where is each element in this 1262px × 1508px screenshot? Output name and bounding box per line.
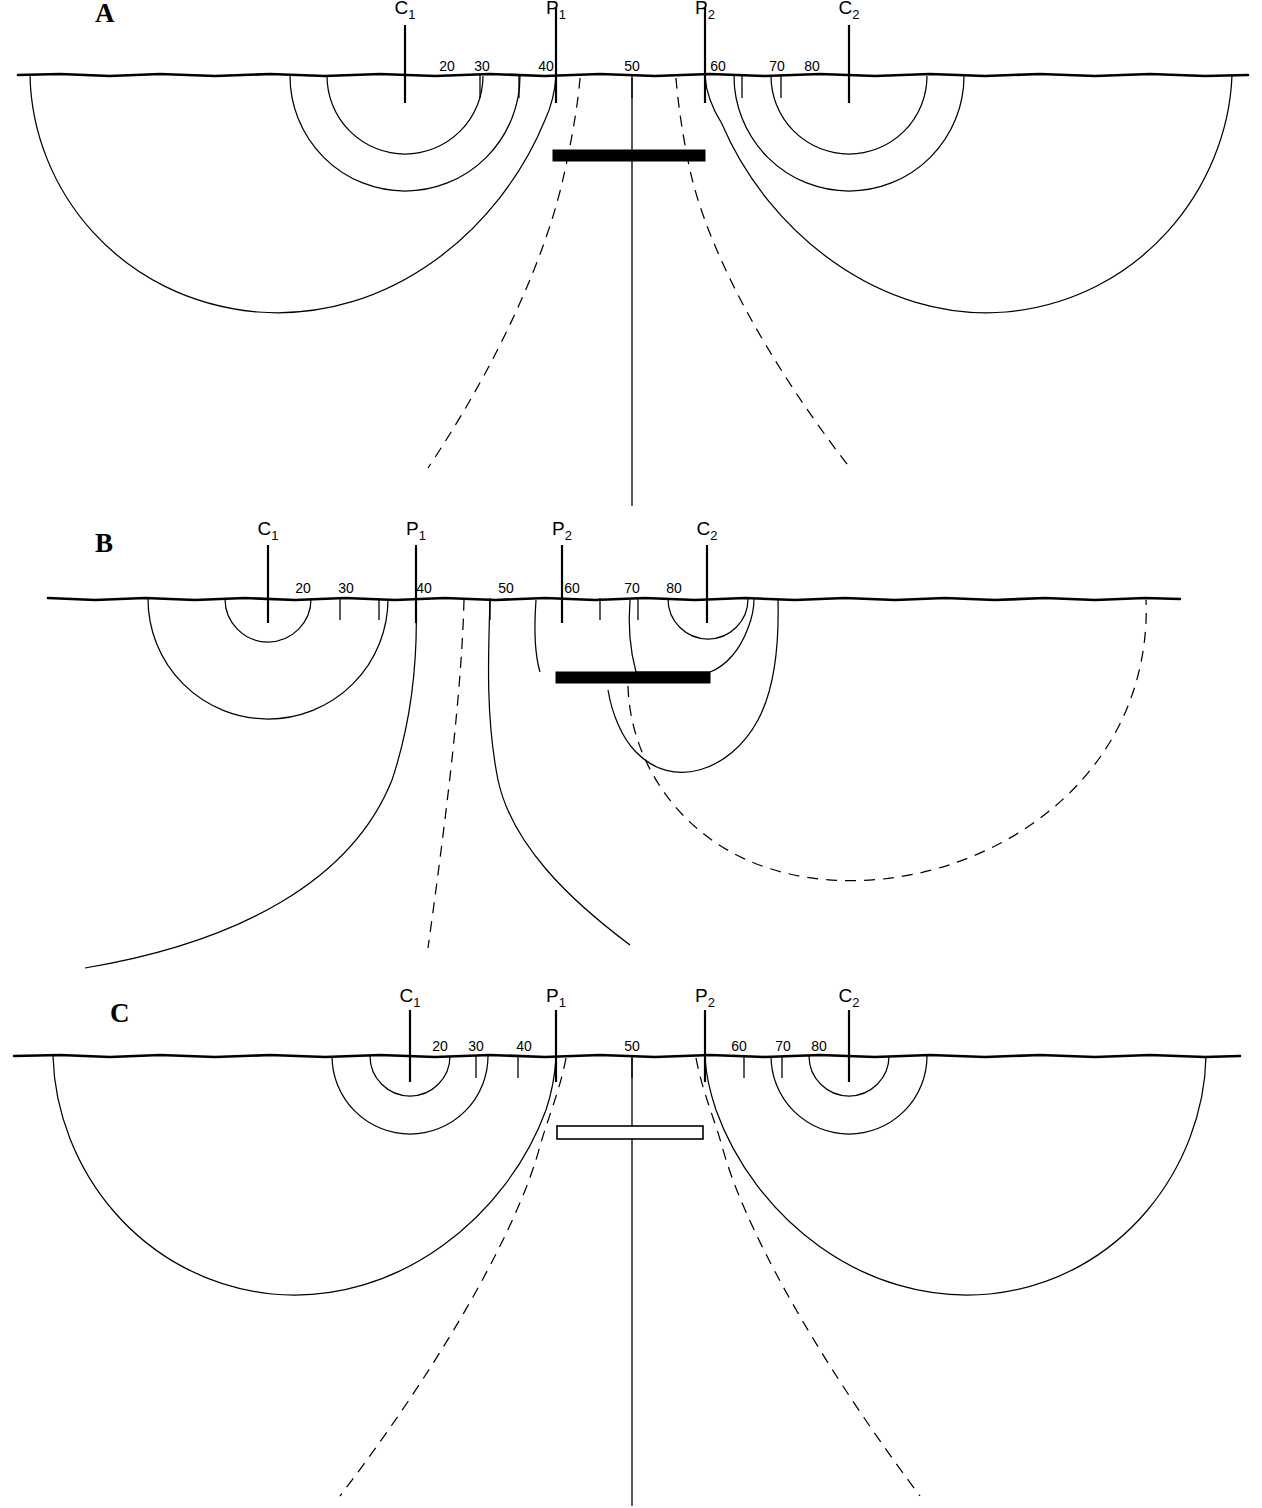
electrode-label-b-p1: P1 bbox=[406, 518, 426, 543]
figure-canvas: A C1 P1 P2 bbox=[0, 0, 1262, 1508]
tick-label-b-80: 80 bbox=[666, 580, 682, 596]
electrode-label-c-c2: C2 bbox=[839, 985, 860, 1010]
equipotential-c-c1-outer bbox=[53, 1056, 556, 1295]
electrode-label-c1: C1 bbox=[395, 0, 416, 22]
panel-c-letter: C bbox=[110, 998, 130, 1028]
equipotential-b-c2-outer bbox=[608, 600, 778, 772]
conductive-body-b bbox=[556, 672, 710, 683]
panel-a-letter: A bbox=[95, 0, 115, 28]
electrode-label-b-c1: C1 bbox=[258, 518, 279, 543]
tick-label-b-70: 70 bbox=[624, 580, 640, 596]
current-line-c-left bbox=[340, 1058, 566, 1496]
tick-label-b-20: 20 bbox=[295, 580, 311, 596]
tick-label-c-40: 40 bbox=[516, 1038, 532, 1054]
tick-label-b-60: 60 bbox=[564, 580, 580, 596]
resistivity-figure: A C1 P1 P2 bbox=[0, 0, 1262, 1508]
tick-label-c-30: 30 bbox=[468, 1038, 484, 1054]
resistive-body bbox=[557, 1126, 703, 1139]
tick-label-b-50: 50 bbox=[498, 580, 514, 596]
tick-label-c-70: 70 bbox=[775, 1038, 791, 1054]
tick-label-c-20: 20 bbox=[432, 1038, 448, 1054]
electrode-label-c-c1: C1 bbox=[400, 985, 421, 1010]
ground-surface bbox=[18, 74, 1248, 76]
ground-surface-c bbox=[14, 1055, 1240, 1057]
tick-label-70: 70 bbox=[769, 58, 785, 74]
current-line-right bbox=[676, 78, 850, 468]
tick-label-30: 30 bbox=[474, 58, 490, 74]
tick-label-60: 60 bbox=[710, 58, 726, 74]
equipotential-c1-outer bbox=[30, 75, 556, 313]
panel-b-letter: B bbox=[95, 528, 113, 558]
tick-label-c-50: 50 bbox=[624, 1038, 640, 1054]
panel-c: C C1 P1 P2 bbox=[14, 985, 1240, 1506]
scale-ticks-c bbox=[476, 1056, 782, 1078]
electrode-label-c-p2: P2 bbox=[695, 985, 715, 1010]
tick-label-80: 80 bbox=[804, 58, 820, 74]
tick-label-c-60: 60 bbox=[731, 1038, 747, 1054]
tick-label-c-80: 80 bbox=[811, 1038, 827, 1054]
current-line-b-outer bbox=[628, 600, 1146, 881]
electrode-label-b-c2: C2 bbox=[697, 518, 718, 543]
current-line-b-left bbox=[428, 600, 464, 948]
current-line-left bbox=[428, 78, 580, 468]
electrode-label-c2: C2 bbox=[839, 0, 860, 22]
electrode-label-b-p2: P2 bbox=[552, 518, 572, 543]
equipotential-b-bar-left bbox=[535, 600, 540, 672]
equipotential-c2-outer bbox=[705, 75, 1232, 313]
tick-label-b-40: 40 bbox=[416, 580, 432, 596]
tick-label-20: 20 bbox=[439, 58, 455, 74]
panel-a: A C1 P1 P2 bbox=[18, 0, 1248, 506]
tick-label-50: 50 bbox=[624, 58, 640, 74]
tick-label-b-30: 30 bbox=[338, 580, 354, 596]
current-line-c-right bbox=[696, 1058, 920, 1496]
tick-label-40: 40 bbox=[538, 58, 554, 74]
equipotential-b-mid bbox=[488, 600, 630, 945]
equipotential-b-p1-sweep bbox=[85, 600, 416, 968]
ground-surface-b bbox=[48, 598, 1180, 600]
panel-b: B bbox=[48, 518, 1180, 968]
conductive-body bbox=[553, 150, 705, 161]
electrode-label-c-p1: P1 bbox=[546, 985, 566, 1010]
